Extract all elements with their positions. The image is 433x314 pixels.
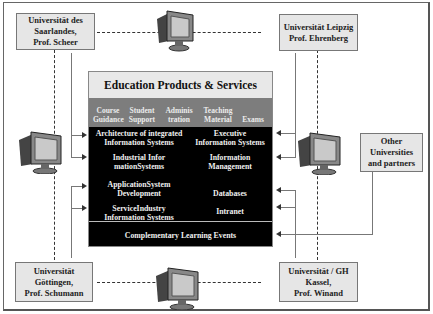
arrow-left-icon	[276, 130, 281, 136]
category-student-support: Student Support	[123, 107, 161, 124]
panel-title: Education Products & Services	[89, 72, 272, 98]
computer-monitor-icon	[296, 127, 344, 175]
computer-monitor-icon	[155, 7, 197, 52]
divider	[89, 221, 272, 222]
services-list: Architecture of integrated Information S…	[89, 127, 272, 246]
service-item: Industrial Infor mationSystems	[91, 153, 187, 171]
university-leipzig-box: Universität Leipzig Prof. Ehrenberg	[279, 14, 358, 51]
connector-right-upper-h2	[280, 157, 296, 158]
connector-left-lower	[71, 186, 72, 258]
university-saarland-box: Universität des Saarlandes, Prof. Scheer	[16, 13, 95, 50]
connector-left-upper-v	[71, 135, 72, 158]
education-products-services-panel: Education Products & Services Course Gui…	[88, 71, 273, 247]
computer-monitor-icon	[154, 262, 202, 310]
connector-other	[372, 172, 373, 235]
arrow-left-icon	[276, 154, 281, 160]
service-item: ServiceIndustry Information Systems	[91, 204, 187, 222]
university-leipzig-label: Universität Leipzig Prof. Ehrenberg	[284, 22, 354, 44]
category-bar: Course Guidance Student Support Adminis …	[89, 98, 272, 127]
complementary-learning-events: Complementary Learning Events	[89, 231, 272, 240]
category-administration: Adminis tration	[161, 107, 197, 124]
category-teaching-material: Teaching Material	[197, 107, 239, 124]
other-universities-box: Other Universities and partners	[360, 133, 423, 172]
arrow-right-icon	[82, 154, 87, 160]
connector-right-upper-h1	[280, 133, 296, 134]
connector-right-lower-h1	[280, 190, 296, 191]
connector-left-upper	[71, 53, 72, 136]
university-kassel-box: Universität / GH Kassel, Prof. Winand	[279, 262, 358, 302]
category-course-guidance: Course Guidance	[93, 107, 123, 124]
service-item: Intranet	[189, 207, 271, 216]
arrow-left-icon	[276, 204, 281, 210]
arrow-left-icon	[276, 231, 281, 237]
arrow-right-icon	[82, 183, 87, 189]
university-saarland-label: Universität des Saarlandes, Prof. Scheer	[28, 15, 83, 48]
arrow-left-icon	[276, 187, 281, 193]
university-goettingen-box: Universität Göttingen, Prof. Schumann	[15, 262, 93, 302]
service-item: Architecture of integrated Information S…	[91, 129, 187, 147]
other-universities-label: Other Universities and partners	[368, 136, 415, 169]
arrow-right-icon	[82, 132, 87, 138]
university-goettingen-label: Universität Göttingen, Prof. Schumann	[25, 266, 84, 299]
computer-monitor-icon	[17, 126, 65, 174]
service-item: Databases	[189, 189, 271, 198]
arrow-right-icon	[82, 205, 87, 211]
category-exams: Exams	[239, 116, 267, 125]
connector-right-lower	[295, 190, 296, 258]
university-kassel-label: Universität / GH Kassel, Prof. Winand	[288, 266, 348, 299]
service-item: Executive Information Systems	[189, 129, 271, 147]
service-item: Information Management	[189, 153, 271, 171]
service-item: ApplicationSystem Development	[91, 180, 187, 198]
connector-right-lower-h2	[280, 207, 296, 208]
connector-other-h	[280, 234, 373, 235]
